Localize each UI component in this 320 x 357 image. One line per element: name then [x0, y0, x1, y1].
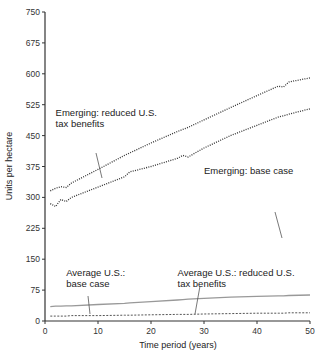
x-tick-label: 30 [199, 326, 209, 336]
y-tick-label: 675 [26, 38, 40, 48]
y-tick-label: 450 [26, 131, 40, 141]
x-tick-label: 40 [252, 326, 262, 336]
y-tick-label: 525 [26, 100, 40, 110]
annotation-label: Average U.S.:base case [66, 267, 125, 289]
y-tick-label: 150 [26, 254, 40, 264]
y-tick-label: 75 [31, 285, 41, 295]
annotation-label: Average U.S.: reduced U.S.tax benefits [178, 267, 295, 289]
annotation-label: Emerging: reduced U.S.tax benefits [56, 107, 157, 129]
series-line-4 [50, 313, 310, 316]
annotation-label: Emerging: base case [204, 165, 293, 176]
x-tick-label: 20 [146, 326, 156, 336]
y-tick-label: 225 [26, 223, 40, 233]
leader-line [195, 286, 200, 314]
leader-line [96, 153, 102, 178]
leader-line [275, 212, 282, 238]
y-axis-title: Units per hectare [4, 132, 14, 201]
y-tick-label: 600 [26, 69, 40, 79]
x-tick-label: 10 [93, 326, 103, 336]
line-chart: 0751502253003754505256006757500102030405… [0, 0, 320, 357]
annotations: Emerging: reduced U.S.tax benefitsEmergi… [56, 107, 295, 314]
y-tick-label: 300 [26, 192, 40, 202]
y-tick-label: 0 [35, 316, 40, 326]
x-tick-label: 0 [43, 326, 48, 336]
x-tick-label: 50 [305, 326, 315, 336]
y-tick-label: 375 [26, 162, 40, 172]
x-axis-title: Time period (years) [139, 340, 217, 350]
y-tick-label: 750 [26, 7, 40, 17]
